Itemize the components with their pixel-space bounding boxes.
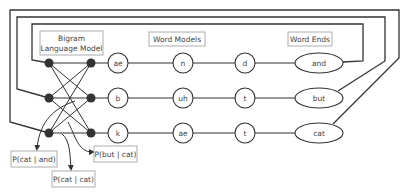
word-end-label: but xyxy=(313,94,326,103)
phone-label: k xyxy=(116,129,121,138)
phone-label: ae xyxy=(113,59,123,68)
word-ends-title: Word Ends xyxy=(290,35,330,44)
arrow-p-but-cat xyxy=(68,122,92,152)
bigram-node-out-3 xyxy=(87,129,96,138)
bigram-node-in-2 xyxy=(45,94,54,103)
phone-label: uh xyxy=(178,94,188,103)
phone-label: b xyxy=(116,94,121,103)
bigram-node-out-2 xyxy=(87,94,96,103)
word-models-title: Word Models xyxy=(153,35,201,44)
bigram-title-line2: Language Model xyxy=(41,44,103,53)
arrow-p-cat-cat xyxy=(62,134,71,168)
bigram-node-in-1 xyxy=(45,59,54,68)
phone-label: ae xyxy=(178,129,188,138)
word-end-label: cat xyxy=(313,129,325,138)
phone-label: n xyxy=(181,59,186,68)
prob-label-but-cat: P(but | cat) xyxy=(95,150,137,159)
bigram-node-in-3 xyxy=(45,129,54,138)
bigram-title-line1: Bigram xyxy=(58,34,85,43)
prob-label-cat-and: P(cat | and) xyxy=(12,155,56,164)
phone-label: t xyxy=(244,129,247,138)
bigram-connections xyxy=(49,63,91,133)
phone-label: d xyxy=(243,59,248,68)
prob-label-cat-cat: P(cat | cat) xyxy=(53,175,94,184)
word-end-label: and xyxy=(312,59,326,68)
phone-label: t xyxy=(244,94,247,103)
bigram-word-network-diagram: Bigram Language Model Word Models Word E… xyxy=(0,0,407,192)
bigram-node-out-1 xyxy=(87,59,96,68)
